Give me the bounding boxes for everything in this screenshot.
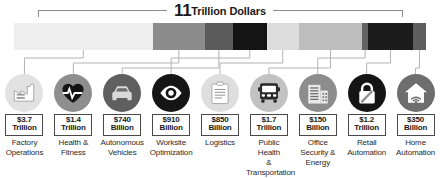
bar-segment-home-automation [413,23,426,50]
value-box-office-security-and-energy: $150Billion [299,114,337,136]
connector-home-automation [416,50,420,74]
heartbeat-icon [54,74,92,112]
value-unit: Billion [401,124,431,132]
factory-icon [5,74,43,112]
bar-segment-retail-automation [368,23,413,50]
segment-caption-retail-automation: Retail Automation [347,138,386,158]
connector-office-security-and-energy [318,50,365,74]
title-words: Trillion Dollars [191,5,266,17]
bar-segment-logistics [267,23,299,50]
value-unit: Trillion [254,124,284,132]
value-unit: Billion [156,124,186,132]
segment-column-autonomous-vehicles[interactable]: $740BillionAutonomous Vehicles [98,74,147,158]
value-unit: Trillion [352,124,382,132]
segment-column-home-automation[interactable]: $350BillionHome Automation [391,74,440,158]
value-unit: Trillion [9,124,39,132]
title-text: 11Trillion Dollars [167,2,273,19]
value-box-logistics: $850Billion [201,114,239,136]
connector-worksite-optimization [171,50,250,74]
segment-caption-factory-operations: Factory Operations [6,138,44,158]
segment-caption-office-security-and-energy: Office Security & Energy [300,138,335,168]
connector-factory-operations [24,50,83,74]
connector-autonomous-vehicles [122,50,219,74]
segment-columns: $3.7TrillionFactory Operations$1.4Trilli… [0,74,440,178]
segment-caption-autonomous-vehicles: Autonomous Vehicles [101,138,144,158]
title-rule-left [38,10,167,11]
value-box-autonomous-vehicles: $740Billion [103,114,141,136]
value-box-health-and-fitness: $1.4Trillion [54,114,92,136]
value-box-factory-operations: $3.7Trillion [5,114,43,136]
segment-column-public-health-and-transportation[interactable]: $1.7TrillionPublic Health & Transportati… [244,74,293,178]
value-box-public-health-and-transportation: $1.7Trillion [250,114,288,136]
padlock-icon [348,74,386,112]
segment-caption-health-and-fitness: Health & Fitness [59,138,88,158]
car-icon [103,74,141,112]
connector-logistics [220,50,283,74]
connector-retail-automation [367,50,391,74]
segment-caption-logistics: Logistics [205,138,235,148]
home-wifi-icon [397,74,435,112]
segment-column-office-security-and-energy[interactable]: $150BillionOffice Security & Energy [293,74,342,168]
bar-segment-public-health-and-transportation [299,23,363,50]
stacked-bar [14,23,426,50]
bus-icon [250,74,288,112]
value-unit: Billion [303,124,333,132]
segment-caption-home-automation: Home Automation [396,138,435,158]
bar-segment-autonomous-vehicles [205,23,233,50]
segment-caption-public-health-and-transportation: Public Health & Transportation [246,138,292,178]
segment-column-worksite-optimization[interactable]: $910BillionWorksite Optimization [147,74,196,158]
segment-column-retail-automation[interactable]: $1.2TrillionRetail Automation [342,74,391,158]
value-unit: Trillion [58,124,88,132]
bar-segment-health-and-fitness [153,23,205,50]
eye-icon [152,74,190,112]
value-box-home-automation: $350Billion [397,114,435,136]
value-box-worksite-optimization: $910Billion [152,114,190,136]
title-rule-right [273,10,402,11]
segment-column-factory-operations[interactable]: $3.7TrillionFactory Operations [0,74,49,158]
connector-health-and-fitness [73,50,178,74]
segment-column-logistics[interactable]: $850BillionLogistics [196,74,245,148]
segment-caption-worksite-optimization: Worksite Optimization [150,138,193,158]
bar-segment-worksite-optimization [233,23,267,50]
connector-public-health-and-transportation [269,50,331,74]
office-building-icon [299,74,337,112]
value-box-retail-automation: $1.2Trillion [348,114,386,136]
chart-title: 11Trillion Dollars [0,0,440,20]
value-unit: Billion [107,124,137,132]
segment-column-health-and-fitness[interactable]: $1.4TrillionHealth & Fitness [49,74,98,158]
value-unit: Billion [205,124,235,132]
title-number: 11 [174,1,191,20]
bar-segment-factory-operations [14,23,153,50]
clipboard-icon [201,74,239,112]
